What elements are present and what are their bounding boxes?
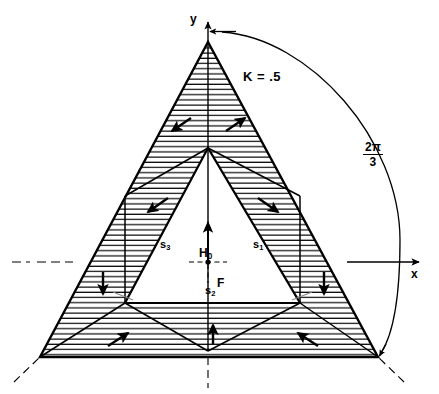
domain-wall-label-s2: s2 [205,285,215,298]
s2-subscript: 2 [211,289,215,298]
corner-tick-marks [14,357,404,388]
arc-angle-numerator: 2π [363,141,383,154]
arc-angle-denominator: 3 [363,155,383,168]
domain-wall-label-s3: s3 [160,239,170,252]
domain-structure-diagram [0,0,439,394]
x-axis-label: x [411,268,418,280]
field-label-subscript: 0 [208,252,213,261]
anisotropy-constant-label: K = .5 [243,70,281,83]
domain-wall-label-s1: s1 [253,239,263,252]
arc-angle-label: 2π 3 [363,141,383,168]
field-label: H0 [199,247,212,261]
y-axis-label: y [190,13,197,25]
s1-subscript: 1 [259,243,263,252]
origin-label: F [217,277,224,289]
field-label-text: H [199,246,208,260]
s3-subscript: 3 [166,243,170,252]
